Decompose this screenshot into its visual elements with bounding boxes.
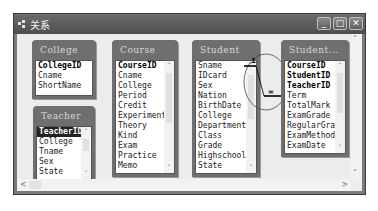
many-label: ∞ [268,88,274,96]
relationships-icon [18,20,26,28]
minimize-button[interactable]: _ [317,17,331,30]
field-item[interactable]: CollegeID [36,61,92,71]
scroll-down-icon[interactable]: ˅ [164,164,174,172]
field-item[interactable]: Cname [36,71,92,81]
field-item[interactable]: ShortName [36,81,92,91]
field-list[interactable]: CollegeID Cname ShortName [35,60,93,96]
field-scrollbar[interactable]: ˄ ˅ [335,61,345,153]
window-title: 关系 [30,17,50,32]
canvas-horizontal-scrollbar[interactable]: < > [17,179,351,191]
maximize-button[interactable]: □ [333,17,347,30]
close-button[interactable]: ✕ [349,17,363,30]
one-label: 1 [251,57,256,65]
table-teacher[interactable]: Teacher TeacherID College Tname Sex Stat… [33,106,95,183]
table-course[interactable]: Course CourseID Cname College Period Cre… [112,40,178,177]
field-list[interactable]: TeacherID College Tname Sex State ˄ ˅ [36,126,92,180]
scroll-thumb[interactable] [83,139,89,151]
scroll-down-icon[interactable]: ˅ [81,170,91,178]
field-list[interactable]: CourseID StudentID TeacherID Term TotalM… [284,60,346,154]
scroll-right-icon[interactable]: > [341,180,348,189]
canvas-vertical-scrollbar[interactable]: ˄ ˅ [351,34,362,179]
table-title[interactable]: Course [115,40,175,60]
scroll-left-icon[interactable]: < [20,180,27,189]
field-scrollbar[interactable]: ˄ ˅ [81,127,91,179]
scroll-thumb[interactable] [166,73,172,123]
scroll-up-icon[interactable]: ˄ [353,35,357,44]
scroll-up-icon[interactable]: ˄ [81,128,91,136]
field-scrollbar[interactable]: ˄ ˅ [164,61,174,173]
relationships-window: 关系 _ □ ✕ College CollegeID Cname ShortNa… [13,13,366,195]
field-list[interactable]: CourseID Cname College Period Credit Exp… [115,60,175,174]
table-title[interactable]: Teacher [36,106,92,126]
table-college[interactable]: College CollegeID Cname ShortName [32,40,96,99]
table-title[interactable]: Student... [284,40,346,60]
scroll-down-icon[interactable]: ˅ [353,169,357,178]
table-student-score[interactable]: Student... CourseID StudentID TeacherID … [281,40,349,157]
scroll-up-icon[interactable]: ˄ [335,62,345,70]
scroll-down-icon[interactable]: ˅ [246,164,256,172]
scroll-down-icon[interactable]: ˅ [335,144,345,152]
scroll-up-icon[interactable]: ˄ [164,62,174,70]
relationship-canvas[interactable]: College CollegeID Cname ShortName Teache… [17,34,362,191]
scroll-thumb[interactable] [29,181,41,189]
table-title[interactable]: College [35,40,93,60]
scroll-thumb[interactable] [337,73,343,113]
title-bar[interactable]: 关系 _ □ ✕ [14,14,365,34]
